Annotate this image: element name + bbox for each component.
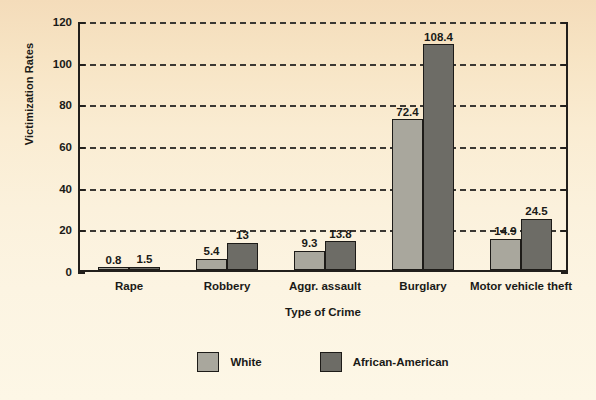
chart-legend: White African-American: [78, 352, 568, 372]
bar-group: 14.924.5Motor vehicle theft: [472, 22, 570, 270]
legend-label-white: White: [230, 356, 261, 368]
y-axis-title: Victimization Rates: [23, 14, 35, 174]
legend-item-white: White: [197, 352, 261, 372]
legend-swatch-african-american: [320, 352, 342, 372]
bar-african-american: 13: [227, 243, 258, 270]
bar-value-label: 24.5: [525, 206, 547, 218]
y-tick-label: 120: [53, 16, 72, 28]
bar-african-american: 108.4: [423, 44, 454, 270]
legend-item-african-american: African-American: [320, 352, 449, 372]
x-category-label: Motor vehicle theft: [470, 280, 572, 292]
legend-swatch-white: [197, 352, 219, 372]
bar-white: 0.8: [98, 267, 129, 270]
x-category-label: Rape: [115, 280, 143, 292]
bar-group: 5.413Robbery: [178, 22, 276, 270]
bar-value-label: 9.3: [302, 238, 318, 250]
bar-value-label: 108.4: [424, 32, 453, 44]
bar-african-american: 24.5: [521, 219, 552, 270]
plot-area: 0204060801001200.81.5Rape5.413Robbery9.3…: [78, 22, 568, 272]
bar-group: 72.4108.4Burglary: [374, 22, 472, 270]
y-tick-mark-right: [561, 272, 568, 274]
y-tick-mark: [78, 272, 85, 274]
bar-value-label: 14.9: [494, 226, 516, 238]
bar-african-american: 13.8: [325, 241, 356, 270]
y-tick-label: 80: [59, 99, 72, 111]
bar-white: 9.3: [294, 251, 325, 270]
bar-group: 9.313.8Aggr. assault: [276, 22, 374, 270]
bar-white: 14.9: [490, 239, 521, 270]
bar-white: 5.4: [196, 259, 227, 270]
y-tick-label: 20: [59, 224, 72, 236]
y-tick-label: 0: [66, 266, 72, 278]
bar-value-label: 13: [236, 230, 249, 242]
bar-value-label: 0.8: [106, 255, 122, 267]
bar-white: 72.4: [392, 119, 423, 270]
bar-value-label: 5.4: [204, 246, 220, 258]
bar-value-label: 1.5: [137, 254, 153, 266]
y-tick-label: 60: [59, 141, 72, 153]
bar-african-american: 1.5: [129, 267, 160, 270]
bar-group: 0.81.5Rape: [80, 22, 178, 270]
x-category-label: Burglary: [399, 280, 446, 292]
legend-label-african-american: African-American: [353, 356, 449, 368]
x-axis-title: Type of Crime: [78, 306, 568, 318]
x-category-label: Aggr. assault: [289, 280, 361, 292]
bar-value-label: 72.4: [396, 107, 418, 119]
victimization-rates-bar-chart: Victimization Rates 0204060801001200.81.…: [0, 0, 596, 400]
bar-value-label: 13.8: [329, 229, 351, 241]
y-tick-label: 100: [53, 58, 72, 70]
y-tick-label: 40: [59, 183, 72, 195]
x-category-label: Robbery: [204, 280, 251, 292]
